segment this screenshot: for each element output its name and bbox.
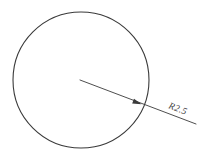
drawing-svg: R2.5 <box>0 0 209 161</box>
drawing-canvas: R2.5 <box>0 0 209 161</box>
sheet-background <box>0 0 209 161</box>
